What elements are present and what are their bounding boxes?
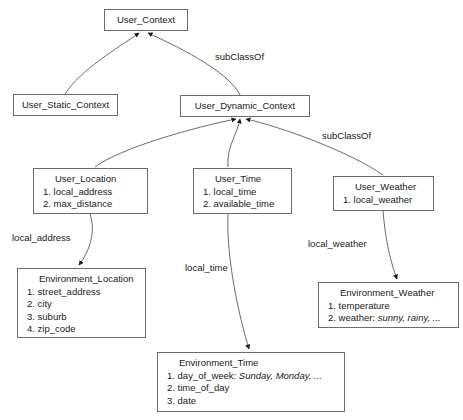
edge-label-subclassof-mid: subClassOf [322, 130, 371, 141]
class-title: User_Location [43, 173, 140, 186]
attr-name: time_of_day [178, 382, 230, 393]
attr-name: street_address [38, 286, 101, 297]
attr-number: 1. [43, 186, 51, 197]
attr-number: 3. [167, 395, 175, 406]
class-attribute: 4. zip_code [27, 323, 138, 336]
class-attribute: 1. temperature [328, 300, 451, 313]
attr-name: local_weather [354, 194, 413, 205]
attr-name: local_time [214, 186, 257, 197]
class-attribute: 2. weather: sunny, rainy, ... [328, 312, 451, 325]
class-box-user-context[interactable]: User_Context [104, 9, 188, 31]
attr-name: weather: [339, 312, 375, 323]
class-attribute: 2. available_time [203, 198, 284, 211]
attr-number: 1. [27, 286, 35, 297]
attr-name: zip_code [38, 323, 76, 334]
attr-number: 1. [328, 300, 336, 311]
attr-name: suburb [38, 311, 67, 322]
class-box-environment-weather[interactable]: Environment_Weather 1. temperature 2. we… [318, 282, 459, 328]
attr-number: 2. [167, 382, 175, 393]
edge-time-to-dynamic [228, 119, 240, 167]
attr-name: temperature [339, 300, 390, 311]
class-box-user-static-context[interactable]: User_Static_Context [13, 94, 118, 116]
edge-label-local-time: local_time [185, 262, 228, 273]
attr-number: 4. [27, 323, 35, 334]
attr-name: day_of_week: [178, 370, 237, 381]
class-title: Environment_Time [167, 357, 337, 370]
class-attribute: 1. local_address [43, 186, 140, 199]
attr-name: max_distance [54, 198, 113, 209]
class-attribute: 1. day_of_week: Sunday, Monday, ... [167, 370, 337, 383]
edge-static-to-context [65, 33, 139, 94]
edge-label-local-weather: local_weather [308, 238, 367, 249]
edge-user-weather-to-env-weather [383, 211, 397, 279]
class-box-user-dynamic-context[interactable]: User_Dynamic_Context [180, 95, 310, 117]
class-attribute: 2. city [27, 298, 138, 311]
class-title: User_Time [203, 173, 284, 186]
attr-number: 1. [167, 370, 175, 381]
edge-user-time-to-env-time [228, 214, 249, 349]
attr-number: 2. [27, 298, 35, 309]
class-title: User_Dynamic_Context [195, 100, 295, 113]
attr-name: local_address [54, 186, 113, 197]
class-attribute: 3. suburb [27, 311, 138, 324]
edge-label-subclassof-top: subClassOf [215, 51, 264, 62]
class-attribute: 1. local_time [203, 186, 284, 199]
attr-number: 2. [43, 198, 51, 209]
class-title: User_Context [117, 14, 175, 27]
class-diagram: User_Context User_Static_Context User_Dy… [0, 0, 463, 420]
attr-value: sunny, rainy, ... [378, 312, 441, 323]
class-title: Environment_Weather [328, 287, 451, 300]
attr-number: 1. [203, 186, 211, 197]
attr-number: 2. [203, 198, 211, 209]
edge-user-location-to-env-location [79, 214, 92, 265]
class-attribute: 1. street_address [27, 286, 138, 299]
attr-name: date [178, 395, 197, 406]
class-box-user-time[interactable]: User_Time 1. local_time 2. available_tim… [193, 168, 292, 214]
class-box-user-weather[interactable]: User_Weather 1. local_weather [333, 176, 434, 211]
edge-location-to-dynamic [95, 119, 236, 167]
class-attribute: 1. local_weather [343, 194, 426, 207]
attr-number: 1. [343, 194, 351, 205]
class-box-environment-location[interactable]: Environment_Location 1. street_address 2… [17, 268, 146, 338]
attr-name: available_time [214, 198, 275, 209]
attr-number: 3. [27, 311, 35, 322]
class-box-environment-time[interactable]: Environment_Time 1. day_of_week: Sunday,… [157, 352, 345, 412]
class-attribute: 2. time_of_day [167, 382, 337, 395]
class-title: User_Static_Context [22, 99, 109, 112]
edge-label-local-address: local_address [12, 232, 71, 243]
edge-weather-to-dynamic [246, 119, 383, 175]
edge-dynamic-to-context [148, 33, 240, 95]
class-box-user-location[interactable]: User_Location 1. local_address 2. max_di… [33, 168, 148, 214]
class-title: Environment_Location [27, 273, 138, 286]
attr-name: city [38, 298, 52, 309]
attr-number: 2. [328, 312, 336, 323]
class-attribute: 3. date [167, 395, 337, 408]
class-attribute: 2. max_distance [43, 198, 140, 211]
attr-value: Sunday, Monday, ... [239, 370, 322, 381]
class-title: User_Weather [343, 181, 426, 194]
